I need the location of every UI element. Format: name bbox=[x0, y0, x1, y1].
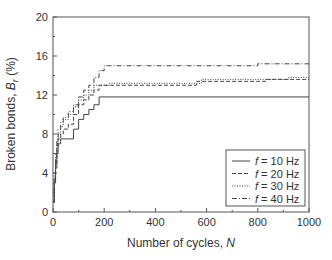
y-tick-label: 12 bbox=[36, 89, 48, 101]
legend-label: f = 20 Hz bbox=[255, 168, 299, 180]
x-tick-label: 200 bbox=[95, 216, 113, 228]
legend-label: f = 40 Hz bbox=[255, 193, 299, 205]
legend-label: f = 30 Hz bbox=[255, 180, 299, 192]
y-tick-label: 8 bbox=[42, 128, 48, 140]
line-chart: 02004006008001000048121620 f = 10 Hzf = … bbox=[0, 0, 332, 260]
x-tick-label: 400 bbox=[146, 216, 164, 228]
y-tick-label: 20 bbox=[36, 11, 48, 23]
x-tick-label: 600 bbox=[197, 216, 215, 228]
x-tick-label: 1000 bbox=[297, 216, 321, 228]
legend-label: f = 10 Hz bbox=[255, 155, 299, 167]
x-tick-label: 0 bbox=[50, 216, 56, 228]
legend: f = 10 Hzf = 20 Hzf = 30 Hzf = 40 Hz bbox=[226, 150, 305, 206]
y-tick-label: 0 bbox=[42, 206, 48, 218]
y-tick-label: 4 bbox=[42, 167, 48, 179]
y-axis-label: Broken bonds, Br (%) bbox=[4, 57, 20, 171]
y-tick-label: 16 bbox=[36, 50, 48, 62]
chart-container: 02004006008001000048121620 f = 10 Hzf = … bbox=[0, 0, 332, 260]
x-axis-label: Number of cycles, N bbox=[127, 236, 235, 250]
x-tick-label: 800 bbox=[249, 216, 267, 228]
